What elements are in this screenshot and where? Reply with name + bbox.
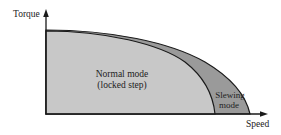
normal-mode-label-line1: Normal mode (96, 69, 149, 79)
normal-mode-label-line2: (locked step) (97, 80, 146, 91)
y-axis-label: Torque (13, 9, 40, 19)
x-axis-label: Speed (246, 119, 269, 129)
x-axis-arrow-icon (260, 111, 268, 117)
y-axis-arrow-icon (43, 9, 49, 17)
torque-speed-diagram: Torque Speed Normal mode (locked step) S… (0, 0, 281, 135)
slewing-mode-label-line2: mode (219, 100, 239, 110)
diagram-svg: Torque Speed Normal mode (locked step) S… (0, 0, 281, 135)
slewing-mode-label-line1: Slewing (215, 90, 245, 100)
